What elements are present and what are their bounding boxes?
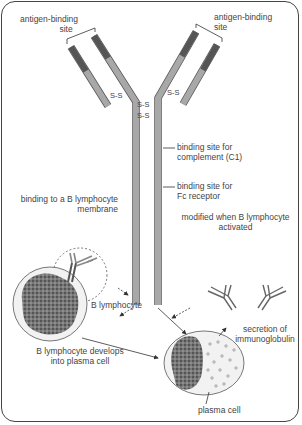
label-line: secretion of <box>232 324 298 334</box>
label-b-lymphocyte: B lymphocyte <box>91 300 142 310</box>
label-fc-receptor-binding-site: binding site for Fc receptor <box>177 181 232 201</box>
label-line: Fc receptor <box>177 191 232 201</box>
label-line: into plasma cell <box>30 356 130 366</box>
label-line: site <box>214 22 272 32</box>
label-line: complement (C1) <box>177 152 242 162</box>
label-complement-binding-site: binding site for complement (C1) <box>177 142 242 162</box>
label-line: binding site for <box>177 142 242 152</box>
secreted-antibodies <box>208 285 286 310</box>
label-disulfide-light-left: S-S <box>110 91 123 101</box>
label-line: B lymphocyte develops <box>30 346 130 356</box>
label-disulfide-light-right: S-S <box>167 88 180 98</box>
label-line: activated <box>178 222 293 232</box>
label-line: site <box>14 24 84 34</box>
label-line: antigen-binding <box>14 14 84 24</box>
label-antigen-binding-site-right: antigen-binding site <box>214 12 272 32</box>
label-membrane-binding: binding to a B lymphocyte membrane <box>14 194 118 214</box>
label-plasma-cell: plasma cell <box>198 405 241 415</box>
label-secretion-of-immunoglobulin: secretion of immunoglobulin <box>232 324 298 344</box>
label-modified-when-activated: modified when B lymphocyte activated <box>178 212 293 232</box>
label-disulfide-hinge-2: S-S <box>137 111 150 121</box>
label-antigen-binding-site-left: antigen-binding site <box>14 14 84 34</box>
antibody-main <box>67 24 222 305</box>
label-line: antigen-binding <box>214 12 272 22</box>
label-line: binding site for <box>177 181 232 191</box>
b-lymphocyte-cell <box>13 253 97 341</box>
label-develops-into-plasma-cell: B lymphocyte develops into plasma cell <box>30 346 130 366</box>
label-line: modified when B lymphocyte <box>178 212 293 222</box>
label-line: membrane <box>14 204 118 214</box>
label-line: immunoglobulin <box>232 334 298 344</box>
label-disulfide-hinge-1: S-S <box>137 100 150 110</box>
label-line: binding to a B lymphocyte <box>14 194 118 204</box>
